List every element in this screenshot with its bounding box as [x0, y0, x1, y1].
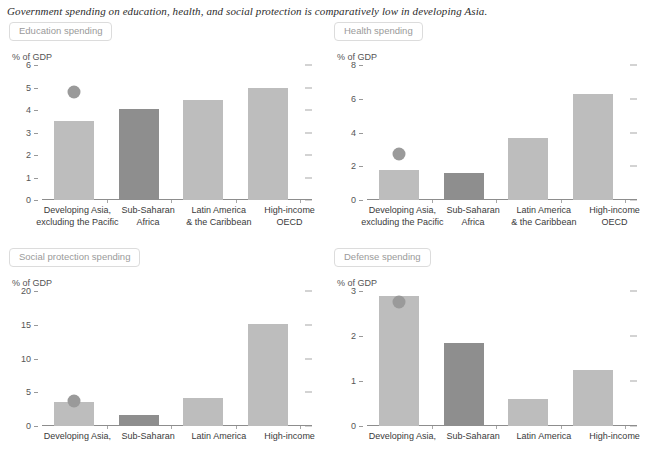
- data-point-marker[interactable]: [393, 147, 406, 160]
- panel-defense: Defense spending % of GDP 0123 Developin…: [325, 243, 650, 461]
- tab-health-spending[interactable]: Health spending: [334, 22, 423, 41]
- bar[interactable]: [444, 173, 484, 200]
- y-axis-tick-label: 2: [337, 331, 363, 341]
- x-axis-category-label: Developing Asia,: [44, 431, 111, 443]
- x-axis-category-label: Sub-Saharan: [122, 431, 175, 443]
- x-axis-category-label: Sub-Saharan: [447, 431, 500, 443]
- y-axis-tick-label: 6: [337, 94, 363, 104]
- x-axis-tick: [496, 426, 497, 429]
- y-axis-right-tick: [630, 336, 637, 337]
- y-axis-tick-label: 5: [12, 387, 38, 397]
- y-axis-right-tick: [305, 291, 312, 292]
- panel-education: Education spending % of GDP 0123456 Deve…: [0, 17, 325, 235]
- data-point-marker[interactable]: [68, 395, 81, 408]
- x-axis-labels-education: Developing Asia,excluding the PacificSub…: [42, 205, 325, 235]
- bar[interactable]: [379, 296, 419, 427]
- bar[interactable]: [54, 121, 94, 200]
- panel-health: Health spending % of GDP 02468 Developin…: [325, 17, 650, 235]
- y-axis-tick-label: 5: [12, 83, 38, 93]
- bar-series: [42, 291, 300, 426]
- x-axis-tick: [171, 200, 172, 203]
- bar-series: [42, 65, 300, 200]
- bar[interactable]: [379, 170, 419, 200]
- bar-series: [367, 291, 625, 426]
- y-axis-right-tick: [630, 65, 637, 66]
- x-axis-tick: [432, 200, 433, 203]
- x-axis-category-label: High-incomeOECD: [589, 205, 640, 228]
- x-axis-category-label: High-income: [589, 431, 640, 443]
- x-axis-tick: [171, 426, 172, 429]
- charts-grid: Education spending % of GDP 0123456 Deve…: [0, 17, 651, 453]
- y-axis-tick-label: 3: [337, 286, 363, 296]
- data-point-marker[interactable]: [68, 86, 81, 99]
- bar[interactable]: [248, 324, 288, 426]
- x-axis-tick: [236, 200, 237, 203]
- y-axis-right-tick: [630, 291, 637, 292]
- y-axis-right-tick: [305, 65, 312, 66]
- y-axis-tick-label: 0: [337, 421, 363, 431]
- y-axis-tick-label: 1: [337, 376, 363, 386]
- chart-social-protection: 05101520: [12, 291, 312, 426]
- tab-defense-spending[interactable]: Defense spending: [334, 248, 431, 267]
- y-axis-tick-label: 1: [12, 173, 38, 183]
- data-point-marker[interactable]: [393, 296, 406, 309]
- y-axis-right-tick: [305, 358, 312, 359]
- x-axis-category-label: High-incomeOECD: [264, 205, 315, 228]
- bar[interactable]: [248, 88, 288, 201]
- chart-education: 0123456: [12, 65, 312, 200]
- panel-social-protection: Social protection spending % of GDP 0510…: [0, 243, 325, 461]
- page-title: Government spending on education, health…: [0, 0, 651, 17]
- x-axis-tick: [300, 426, 301, 429]
- y-axis-tick-label: 6: [12, 60, 38, 70]
- x-axis-tick: [625, 426, 626, 429]
- x-axis-tick: [432, 426, 433, 429]
- bar[interactable]: [573, 370, 613, 426]
- y-axis-right-tick: [305, 324, 312, 325]
- x-axis-labels-defense: Developing Asia,Sub-SaharanLatin America…: [367, 431, 650, 461]
- bar[interactable]: [183, 398, 223, 426]
- x-axis-category-label: Developing Asia,excluding the Pacific: [361, 205, 443, 228]
- x-axis-tick: [496, 200, 497, 203]
- x-axis-tick: [107, 200, 108, 203]
- x-axis-tick: [561, 426, 562, 429]
- bar[interactable]: [573, 94, 613, 200]
- x-axis-category-label: Latin America& the Caribbean: [186, 205, 251, 228]
- x-axis-category-label: Latin America: [192, 431, 247, 443]
- chart-health: 02468: [337, 65, 637, 200]
- plot-axes: 02468: [367, 65, 625, 200]
- bar[interactable]: [119, 109, 159, 200]
- x-axis-category-label: Latin America& the Caribbean: [511, 205, 576, 228]
- plot-axes: 0123: [367, 291, 625, 426]
- y-axis-tick-label: 2: [337, 161, 363, 171]
- y-axis-tick-label: 8: [337, 60, 363, 70]
- bar[interactable]: [508, 138, 548, 200]
- chart-defense: 0123: [337, 291, 637, 426]
- tab-education-spending[interactable]: Education spending: [9, 22, 112, 41]
- bar-series: [367, 65, 625, 200]
- y-axis-tick-label: 15: [12, 320, 38, 330]
- bar[interactable]: [444, 343, 484, 426]
- y-axis-right-tick: [305, 87, 312, 88]
- bar[interactable]: [119, 415, 159, 426]
- bar[interactable]: [508, 399, 548, 426]
- x-axis-tick: [300, 200, 301, 203]
- y-axis-tick-label: 4: [337, 128, 363, 138]
- y-axis-tick-label: 0: [12, 421, 38, 431]
- y-axis-tick-label: 20: [12, 286, 38, 296]
- y-axis-tick-label: 0: [337, 195, 363, 205]
- y-axis-right-tick: [630, 132, 637, 133]
- y-axis-tick-label: 3: [12, 128, 38, 138]
- x-axis-category-label: Developing Asia,: [369, 431, 436, 443]
- x-axis-category-label: Sub-SaharanAfrica: [447, 205, 500, 228]
- y-axis-tick-label: 4: [12, 105, 38, 115]
- bar[interactable]: [183, 100, 223, 200]
- tab-social-protection-spending[interactable]: Social protection spending: [9, 248, 140, 267]
- x-axis-category-label: Latin America: [517, 431, 572, 443]
- x-axis-category-label: High-income: [264, 431, 315, 443]
- y-axis-right-tick: [630, 166, 637, 167]
- x-axis-tick: [625, 200, 626, 203]
- plot-axes: 05101520: [42, 291, 300, 426]
- x-axis-tick: [561, 200, 562, 203]
- x-axis-tick: [236, 426, 237, 429]
- x-axis-labels-health: Developing Asia,excluding the PacificSub…: [367, 205, 650, 235]
